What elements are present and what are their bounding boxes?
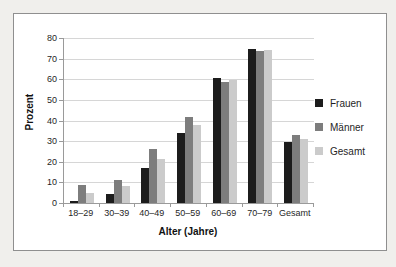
legend-swatch-Gesamt xyxy=(315,147,323,155)
bar-group-70–79 xyxy=(243,49,279,203)
legend: FrauenMännerGesamt xyxy=(315,91,365,163)
bar-Männer-18–29 xyxy=(78,185,86,203)
bar-Männer-30–39 xyxy=(114,180,122,203)
x-tick-label-50–59: 50–59 xyxy=(170,208,206,218)
x-tick-mark-7 xyxy=(313,204,314,207)
legend-item-Männer: Männer xyxy=(315,115,365,139)
legend-label-Gesamt: Gesamt xyxy=(330,146,365,157)
bar-Gesamt-50–59 xyxy=(193,125,201,203)
bar-Männer-40–49 xyxy=(149,149,157,203)
y-tick-label-80: 80 xyxy=(31,33,57,43)
y-tick-label-10: 10 xyxy=(31,177,57,187)
bar-group-18–29 xyxy=(64,185,100,203)
x-tick-mark-4 xyxy=(206,204,207,207)
y-tick-label-70: 70 xyxy=(31,54,57,64)
bar-group-50–59 xyxy=(171,117,207,203)
bar-Frauen-40–49 xyxy=(141,168,149,203)
bar-Gesamt-Gesamt xyxy=(300,139,308,203)
bar-Gesamt-60–69 xyxy=(229,80,237,203)
y-tick-label-30: 30 xyxy=(31,136,57,146)
x-tick-mark-1 xyxy=(99,204,100,207)
bar-group-30–39 xyxy=(100,180,136,203)
x-tick-label-70–79: 70–79 xyxy=(242,208,278,218)
chart-panel: Prozent 01020304050607080 18–2930–3940–4… xyxy=(13,13,387,251)
bar-Gesamt-30–39 xyxy=(122,186,130,203)
legend-swatch-Männer xyxy=(315,123,323,131)
x-tick-mark-6 xyxy=(277,204,278,207)
bar-group-Gesamt xyxy=(278,135,314,203)
y-tick-label-0: 0 xyxy=(31,198,57,208)
bar-group-40–49 xyxy=(135,149,171,203)
bar-Gesamt-40–49 xyxy=(157,159,165,203)
y-tick-label-50: 50 xyxy=(31,95,57,105)
bar-Männer-Gesamt xyxy=(292,135,300,203)
x-tick-mark-3 xyxy=(170,204,171,207)
y-tick-label-60: 60 xyxy=(31,74,57,84)
bar-Männer-50–59 xyxy=(185,117,193,203)
plot-area xyxy=(63,38,314,204)
y-tick-label-20: 20 xyxy=(31,157,57,167)
x-tick-mark-5 xyxy=(242,204,243,207)
x-tick-label-30–39: 30–39 xyxy=(99,208,135,218)
legend-label-Frauen: Frauen xyxy=(330,98,362,109)
bar-Männer-70–79 xyxy=(256,51,264,203)
bar-Männer-60–69 xyxy=(221,82,229,203)
x-tick-label-60–69: 60–69 xyxy=(206,208,242,218)
x-axis-title: Alter (Jahre) xyxy=(63,226,313,237)
bar-group-60–69 xyxy=(207,78,243,203)
legend-swatch-Frauen xyxy=(315,99,323,107)
bar-Frauen-60–69 xyxy=(213,78,221,203)
legend-item-Gesamt: Gesamt xyxy=(315,139,365,163)
y-tick-label-40: 40 xyxy=(31,116,57,126)
x-tick-mark-2 xyxy=(134,204,135,207)
x-tick-label-Gesamt: Gesamt xyxy=(277,208,313,218)
x-tick-label-40–49: 40–49 xyxy=(134,208,170,218)
bar-Frauen-30–39 xyxy=(106,194,114,203)
legend-label-Männer: Männer xyxy=(330,122,364,133)
bar-Frauen-18–29 xyxy=(70,201,78,203)
bar-Gesamt-70–79 xyxy=(264,50,272,203)
bar-Frauen-Gesamt xyxy=(284,142,292,203)
x-tick-label-18–29: 18–29 xyxy=(63,208,99,218)
x-tick-mark-0 xyxy=(63,204,64,207)
bar-Frauen-70–79 xyxy=(248,49,256,203)
bar-Frauen-50–59 xyxy=(177,133,185,203)
legend-item-Frauen: Frauen xyxy=(315,91,365,115)
gridline-80 xyxy=(64,38,314,39)
bar-Gesamt-18–29 xyxy=(86,193,94,203)
